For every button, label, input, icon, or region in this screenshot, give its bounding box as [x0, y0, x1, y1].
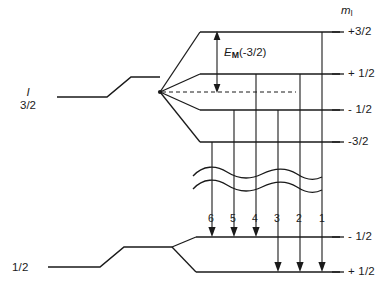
column-header-m-I: mI [341, 4, 353, 18]
left-state-label-upper: I 3/2 [8, 86, 48, 112]
transition-line-1 [318, 32, 325, 272]
transition-line-2 [296, 74, 303, 272]
upper-fan-lines [160, 32, 200, 142]
lower-fan-lines [172, 237, 196, 272]
transition-line-3 [274, 110, 281, 272]
diagram-canvas [0, 0, 386, 291]
upper-level-ticks [332, 32, 344, 142]
left-upper-state-line [57, 77, 160, 97]
lower-level-label-minus-1-2: - 1/2 [348, 230, 372, 242]
level-label-minus-3-2: -3/2 [348, 135, 369, 147]
transition-label-5: 5 [230, 212, 236, 224]
energy-level-diagram: mI I 3/2 1/2 +3/2 + 1/2 - 1/2 -3/2 - 1/2… [0, 0, 386, 291]
transition-label-2: 2 [296, 212, 302, 224]
lower-level-ticks [332, 237, 344, 272]
transition-label-1: 1 [319, 212, 325, 224]
level-label-minus-1-2: - 1/2 [348, 103, 372, 115]
level-label-plus-3-2: +3/2 [348, 25, 372, 37]
left-state-label-lower: 1/2 [12, 261, 29, 273]
transition-label-4: 4 [252, 212, 258, 224]
energy-shift-arrow [214, 31, 221, 93]
left-lower-state-line [48, 247, 172, 267]
energy-shift-label: EM(-3/2) [224, 46, 266, 60]
transition-label-6: 6 [208, 212, 214, 224]
lower-level-label-plus-1-2: + 1/2 [348, 265, 375, 277]
transition-label-3: 3 [274, 212, 280, 224]
level-label-plus-1-2: + 1/2 [348, 67, 375, 79]
